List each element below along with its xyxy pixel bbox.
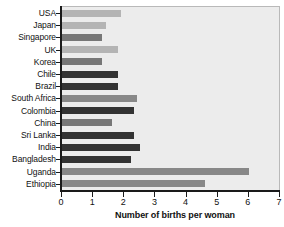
category-label-ethiopia: Ethiopia	[0, 178, 56, 190]
bar-row: Singapore	[0, 31, 284, 43]
bar-row: Brazil	[0, 80, 284, 92]
bar-china	[62, 119, 112, 126]
category-label-brazil: Brazil	[0, 80, 56, 92]
category-label-sri-lanka: Sri Lanka	[0, 129, 56, 141]
category-label-japan: Japan	[0, 19, 56, 31]
x-axis-tick-label-7: 7	[269, 197, 284, 207]
bar-row: Korea	[0, 56, 284, 68]
bar-colombia	[62, 107, 134, 114]
bar-row: USA	[0, 7, 284, 19]
bar-singapore	[62, 34, 102, 41]
x-axis-tick-label-6: 6	[238, 197, 258, 207]
bar-japan	[62, 22, 106, 29]
bar-ethiopia	[62, 180, 205, 187]
bar-south-africa	[62, 95, 137, 102]
x-axis-title: Number of births per woman	[0, 210, 284, 220]
bar-row: South Africa	[0, 92, 284, 104]
bar-bangladesh	[62, 156, 131, 163]
category-label-colombia: Colombia	[0, 105, 56, 117]
x-axis-tick-label-0: 0	[51, 197, 71, 207]
category-label-south-africa: South Africa	[0, 92, 56, 104]
x-axis-tick-label-5: 5	[207, 197, 227, 207]
x-axis-tick-label-4: 4	[176, 197, 196, 207]
category-label-china: China	[0, 117, 56, 129]
bar-row: India	[0, 141, 284, 153]
bar-row: Colombia	[0, 105, 284, 117]
bar-row: Japan	[0, 19, 284, 31]
bar-row: Chile	[0, 68, 284, 80]
category-label-uganda: Uganda	[0, 166, 56, 178]
bar-korea	[62, 58, 102, 65]
bar-uk	[62, 46, 118, 53]
births-per-woman-bar-chart: USAJapanSingaporeUKKoreaChileBrazilSouth…	[0, 0, 284, 227]
y-axis-line	[60, 6, 62, 191]
bar-usa	[62, 10, 121, 17]
bar-row: China	[0, 117, 284, 129]
x-axis-tick-label-3: 3	[144, 197, 164, 207]
bar-row: UK	[0, 44, 284, 56]
x-axis-tick-label-2: 2	[113, 197, 133, 207]
bar-row: Sri Lanka	[0, 129, 284, 141]
category-label-bangladesh: Bangladesh	[0, 153, 56, 165]
bar-row: Ethiopia	[0, 178, 284, 190]
bar-row: Bangladesh	[0, 153, 284, 165]
x-axis-tick-label-1: 1	[82, 197, 102, 207]
bar-row: Uganda	[0, 166, 284, 178]
category-label-india: India	[0, 141, 56, 153]
category-label-korea: Korea	[0, 56, 56, 68]
category-label-usa: USA	[0, 7, 56, 19]
bar-sri-lanka	[62, 132, 134, 139]
bar-chile	[62, 71, 118, 78]
bar-uganda	[62, 168, 249, 175]
bar-brazil	[62, 83, 118, 90]
bar-india	[62, 144, 140, 151]
category-label-uk: UK	[0, 44, 56, 56]
category-label-singapore: Singapore	[0, 31, 56, 43]
category-label-chile: Chile	[0, 68, 56, 80]
